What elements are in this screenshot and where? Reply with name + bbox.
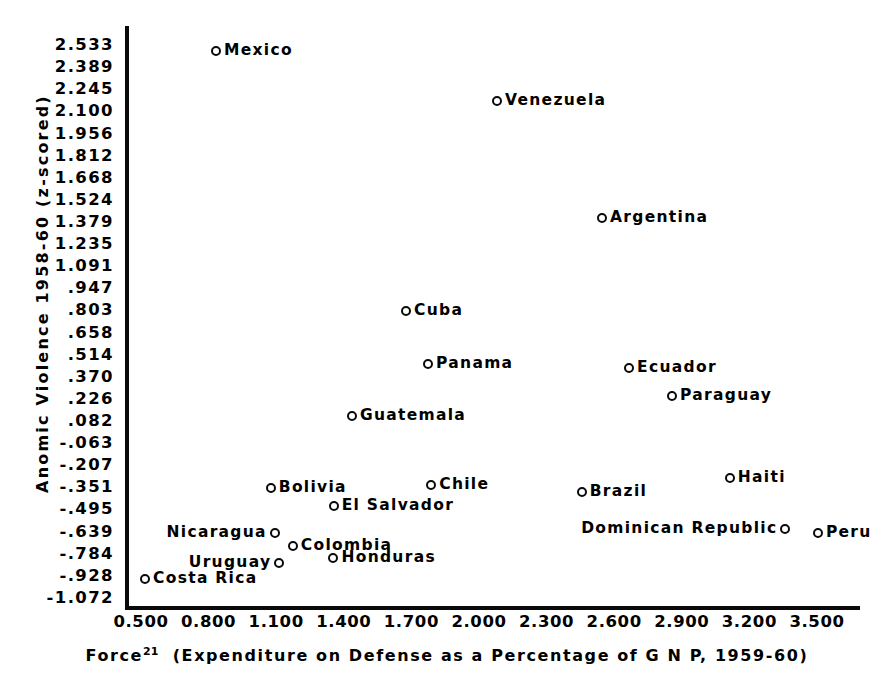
plot-area: MexicoVenezuelaArgentinaCubaPanamaEcuado… [0,0,894,689]
data-point-marker-icon [266,483,276,493]
data-point-marker-icon [492,96,502,106]
data-point-label: Honduras [341,550,436,566]
data-point-marker-icon [401,306,411,316]
data-point-label: Guatemala [360,408,466,424]
data-point-label: Nicaragua [167,525,267,541]
data-point-label: Haiti [738,470,786,486]
data-point-marker-icon [667,391,677,401]
data-point-label: Argentina [610,210,708,226]
data-point-label: Cuba [414,303,463,319]
data-point-marker-icon [780,524,790,534]
data-point-marker-icon [329,501,339,511]
data-point-label: El Salvador [342,498,454,514]
data-point-marker-icon [423,359,433,369]
data-point-label: Panama [436,356,513,372]
data-point-marker-icon [813,528,823,538]
data-point-label: Costa Rica [153,571,257,587]
data-point-marker-icon [426,480,436,490]
data-point-marker-icon [211,46,221,56]
data-point-label: Bolivia [279,480,347,496]
data-point-label: Ecuador [637,360,717,376]
data-point-label: Mexico [224,43,293,59]
data-point-marker-icon [624,363,634,373]
data-point-marker-icon [140,574,150,584]
data-point-marker-icon [274,558,284,568]
data-point-marker-icon [597,213,607,223]
data-point-label: Brazil [590,484,647,500]
data-point-label: Peru [826,525,872,541]
scatter-plot-figure: 2.5332.3892.2452.1001.9561.8121.6681.524… [0,0,894,689]
data-point-label: Venezuela [505,93,606,109]
data-point-marker-icon [288,541,298,551]
data-point-marker-icon [328,553,338,563]
data-point-label: Paraguay [680,388,772,404]
data-point-label: Chile [439,477,489,493]
data-point-label: Dominican Republic [581,521,777,537]
data-point-marker-icon [725,473,735,483]
data-point-marker-icon [347,411,357,421]
data-point-marker-icon [577,487,587,497]
data-point-marker-icon [270,528,280,538]
